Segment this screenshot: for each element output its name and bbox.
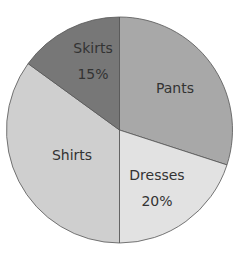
label-shirts: Shirts [52,147,92,163]
label-dresses: Dresses [129,167,184,183]
pie-chart: Pants Dresses 20% Shirts Skirts 15% [0,0,245,258]
label-pants: Pants [156,80,194,96]
pie-slices [7,17,233,243]
label-dresses-percent: 20% [141,193,172,209]
label-skirts-percent: 15% [77,66,108,82]
label-skirts: Skirts [73,40,112,56]
